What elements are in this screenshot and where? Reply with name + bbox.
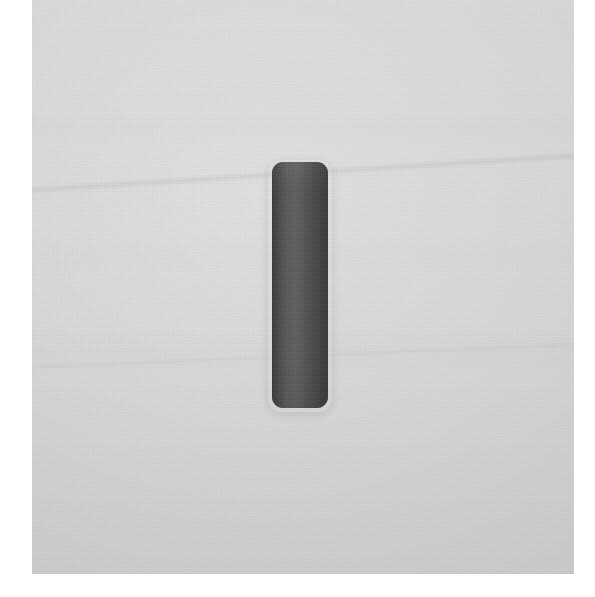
dark-vertical-bar <box>272 162 328 408</box>
object-cylindrical-shading <box>272 162 328 408</box>
image-caption: A single dark grey vertical rounded obje… <box>0 0 1 1</box>
object-grain-texture <box>272 162 328 408</box>
scan-surface <box>32 0 574 574</box>
scan-canvas: A single dark grey vertical rounded obje… <box>0 0 595 597</box>
